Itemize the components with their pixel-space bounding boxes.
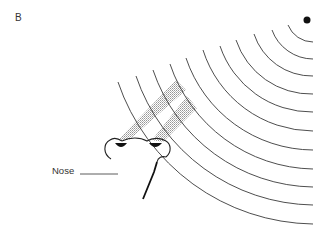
nose-outline bbox=[105, 138, 170, 162]
wavefront-arc bbox=[170, 64, 313, 169]
right-nostril bbox=[149, 143, 162, 147]
wavefront-arc bbox=[186, 58, 313, 150]
wavefront-arc bbox=[272, 30, 313, 59]
odor-wavefronts bbox=[118, 25, 313, 224]
nose-left-ala bbox=[105, 138, 122, 159]
left-nostril bbox=[115, 143, 127, 147]
wavefront-arc bbox=[203, 50, 313, 131]
odor-diagram bbox=[0, 0, 329, 232]
wavefront-arc bbox=[288, 25, 313, 42]
philtrum-line bbox=[143, 162, 157, 199]
odor-source-dot bbox=[304, 17, 311, 24]
wavefront-arc bbox=[236, 40, 313, 94]
left-nostril-beam bbox=[118, 80, 186, 140]
